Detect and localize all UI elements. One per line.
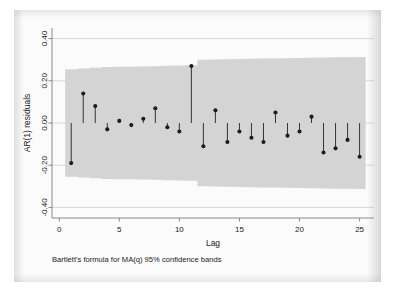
x-tick-label: 15 xyxy=(235,225,244,234)
chart-caption: Bartlett's formula for MA(q) 95% confide… xyxy=(52,255,222,264)
data-point xyxy=(69,161,73,165)
data-point xyxy=(358,155,362,159)
data-point xyxy=(285,134,289,138)
data-point xyxy=(189,64,193,68)
x-tick-label: 5 xyxy=(117,225,122,234)
y-tick-label: -0.20 xyxy=(40,156,49,175)
data-point xyxy=(81,91,85,95)
x-axis-label: Lag xyxy=(206,238,220,248)
data-point xyxy=(309,115,313,119)
data-point xyxy=(261,140,265,144)
data-point xyxy=(249,136,253,140)
data-point xyxy=(177,129,181,133)
data-point xyxy=(225,140,229,144)
y-tick-label: -0.40 xyxy=(40,198,49,217)
data-point xyxy=(321,151,325,155)
data-point xyxy=(334,146,338,150)
y-tick-label: 0.00 xyxy=(40,115,49,131)
data-point xyxy=(273,110,277,114)
data-point xyxy=(153,106,157,110)
y-tick-label: 0.20 xyxy=(40,72,49,88)
acf-figure: 0510152025 0.400.200.00-0.20-0.40 AR(1) … xyxy=(14,10,381,282)
acf-chart-canvas: 0510152025 0.400.200.00-0.20-0.40 AR(1) … xyxy=(14,10,381,282)
data-point xyxy=(165,125,169,129)
x-tick-label: 10 xyxy=(175,225,184,234)
x-tick-label: 25 xyxy=(355,225,364,234)
data-point xyxy=(297,129,301,133)
data-point xyxy=(201,144,205,148)
data-point xyxy=(237,129,241,133)
data-point xyxy=(93,104,97,108)
data-point xyxy=(346,138,350,142)
data-point xyxy=(213,108,217,112)
x-tick-label: 0 xyxy=(57,225,62,234)
data-point xyxy=(105,127,109,131)
y-axis-label: AR(1) residuals xyxy=(22,94,32,153)
x-tick-label: 20 xyxy=(295,225,304,234)
y-tick-label: 0.40 xyxy=(40,30,49,46)
data-point xyxy=(129,123,133,127)
data-point xyxy=(117,119,121,123)
data-point xyxy=(141,117,145,121)
